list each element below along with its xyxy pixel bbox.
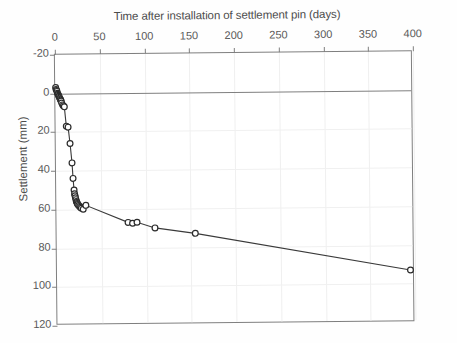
y-tick-label: 80 (17, 240, 51, 252)
chart-title: Time after installation of settlement pi… (0, 7, 456, 23)
x-tick-label: 250 (258, 28, 298, 40)
x-tick-label: 400 (393, 27, 433, 39)
x-tick-label: 150 (169, 29, 209, 41)
data-point-marker (83, 202, 89, 208)
data-point-marker (61, 104, 67, 110)
y-tick-label: 100 (17, 279, 51, 291)
y-tick-label: 40 (16, 163, 50, 175)
x-tick-label: 350 (348, 27, 388, 39)
data-point-marker (69, 160, 75, 166)
x-tick-label: 200 (214, 29, 254, 41)
data-point-marker (70, 175, 76, 181)
data-point-marker (152, 225, 158, 231)
series-markers-settlement (53, 81, 414, 276)
x-tick-label: 300 (303, 28, 343, 40)
y-tick-label: 0 (15, 85, 49, 97)
x-tick-label: 0 (35, 30, 75, 42)
x-tick-label: 100 (124, 30, 164, 42)
series-line-settlement (56, 84, 411, 273)
x-tick-label: 50 (79, 30, 119, 42)
y-tick-mark (52, 326, 57, 327)
plot-area: 050100150200250300350400 -20020406080100… (54, 50, 415, 324)
settlement-chart-figure: Time after installation of settlement pi… (0, 0, 457, 343)
data-point-marker (408, 267, 414, 273)
y-tick-label: -20 (15, 47, 49, 59)
data-point-marker (67, 141, 73, 147)
data-point-marker (192, 230, 198, 236)
chart-skew-wrapper: Time after installation of settlement pi… (0, 0, 457, 343)
data-point-marker (65, 124, 71, 130)
data-point-marker (134, 219, 140, 225)
data-series-layer (55, 51, 416, 325)
y-tick-label: 120 (17, 318, 51, 330)
y-tick-label: 20 (16, 124, 50, 136)
y-tick-label: 60 (16, 202, 50, 214)
x-tick-mark (413, 46, 414, 51)
